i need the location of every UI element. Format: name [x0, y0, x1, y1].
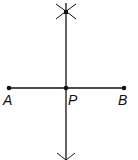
- label-a: A: [2, 92, 12, 108]
- label-b: B: [118, 92, 127, 108]
- point-b: [122, 86, 127, 91]
- point-p: [64, 86, 69, 91]
- point-a: [7, 86, 12, 91]
- construction-diagram: A P B: [0, 0, 138, 160]
- label-p: P: [68, 92, 78, 108]
